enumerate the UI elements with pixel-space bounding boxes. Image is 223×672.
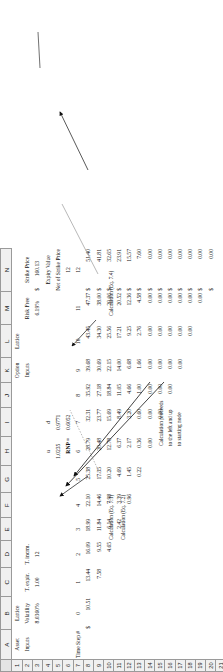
cell-B14[interactable]	[144, 597, 154, 630]
cell-M7[interactable]: 11	[73, 292, 83, 325]
cell-A19[interactable]	[195, 630, 205, 660]
column-header-G[interactable]: G	[1, 466, 12, 493]
row-header-7[interactable]: 7	[73, 660, 83, 672]
cell-N21[interactable]	[216, 248, 223, 292]
cell-M11[interactable]: 20.52	[114, 292, 124, 325]
cell-C6[interactable]	[63, 568, 73, 597]
cell-M14[interactable]: 0.00	[144, 292, 154, 325]
cell-E13[interactable]	[134, 518, 144, 541]
cell-N11[interactable]: $23.91	[114, 248, 124, 292]
cell-F5[interactable]	[53, 493, 63, 518]
cell-F8[interactable]: 22.10	[83, 493, 93, 518]
cell-C10[interactable]	[104, 568, 114, 597]
cell-L18[interactable]: 0.00	[185, 325, 195, 358]
cell-K21[interactable]	[216, 358, 223, 383]
cell-I16[interactable]	[165, 408, 175, 437]
cell-I3[interactable]	[32, 408, 42, 437]
cell-L21[interactable]	[216, 325, 223, 358]
cell-C1[interactable]	[12, 568, 23, 597]
cell-I20[interactable]	[206, 408, 216, 437]
cell-H8[interactable]: 28.79	[83, 437, 93, 466]
cell-N20[interactable]: $0.00	[206, 248, 216, 292]
cell-C12[interactable]	[124, 568, 134, 597]
cell-D9[interactable]: 9.55	[94, 541, 104, 568]
cell-J13[interactable]: 1.00	[134, 383, 144, 408]
cell-K15[interactable]: 0.00	[155, 358, 165, 383]
cell-A11[interactable]	[114, 630, 124, 660]
cell-I17[interactable]	[175, 408, 185, 437]
grid-corner[interactable]	[1, 660, 12, 672]
row-header-19[interactable]: 19	[195, 660, 205, 672]
cell-G9[interactable]: 17.35	[94, 466, 104, 493]
cell-E14[interactable]	[144, 518, 154, 541]
cell-E18[interactable]	[185, 518, 195, 541]
cell-D16[interactable]	[165, 541, 175, 568]
cell-H3[interactable]	[32, 437, 42, 466]
cell-G7[interactable]: 5	[73, 466, 83, 493]
cell-M21[interactable]	[216, 292, 223, 325]
cell-M15[interactable]: 0.00	[155, 292, 165, 325]
cell-G20[interactable]	[206, 466, 216, 493]
cell-K1[interactable]: Option	[12, 358, 23, 383]
row-header-8[interactable]: 8	[83, 660, 93, 672]
cell-C5[interactable]	[53, 568, 63, 597]
cell-L8[interactable]: 43.45	[83, 325, 93, 358]
cell-I10[interactable]: 15.69	[104, 408, 114, 437]
cell-J6[interactable]	[63, 383, 73, 408]
cell-K17[interactable]: 0.00	[175, 358, 185, 383]
cell-F9[interactable]: 14.46	[94, 493, 104, 518]
row-header-5[interactable]: 5	[53, 660, 63, 672]
cell-E19[interactable]	[195, 518, 205, 541]
cell-B16[interactable]	[165, 597, 175, 630]
cell-D10[interactable]: 4.65	[104, 541, 114, 568]
cell-I15[interactable]: 0.00	[155, 408, 165, 437]
cell-A18[interactable]	[185, 630, 195, 660]
cell-E12[interactable]	[124, 518, 134, 541]
cell-L16[interactable]: 0.00	[165, 325, 175, 358]
row-header-10[interactable]: 10	[104, 660, 114, 672]
column-header-F[interactable]: F	[1, 493, 12, 518]
cell-I18[interactable]	[185, 408, 195, 437]
cell-C11[interactable]	[114, 568, 124, 597]
row-header-2[interactable]: 2	[22, 660, 32, 672]
cell-I2[interactable]	[22, 408, 32, 437]
cell-M13[interactable]: 4.58	[134, 292, 144, 325]
column-header-J[interactable]: J	[1, 383, 12, 408]
cell-A12[interactable]	[124, 630, 134, 660]
row-header-3[interactable]: 3	[32, 660, 42, 672]
cell-H20[interactable]	[206, 437, 216, 466]
cell-H7[interactable]: 6	[73, 437, 83, 466]
cell-F17[interactable]	[175, 493, 185, 518]
cell-N10[interactable]: $32.65	[104, 248, 114, 292]
cell-J9[interactable]: 27.18	[94, 383, 104, 408]
cell-L6[interactable]	[63, 325, 73, 358]
cell-M6[interactable]	[63, 292, 73, 325]
cell-F6[interactable]	[63, 493, 73, 518]
cell-K2[interactable]: Inputs	[22, 358, 32, 383]
cell-L19[interactable]	[195, 325, 205, 358]
cell-L11[interactable]: 17.21	[114, 325, 124, 358]
cell-D15[interactable]	[155, 541, 165, 568]
cell-F19[interactable]	[195, 493, 205, 518]
cell-F18[interactable]	[185, 493, 195, 518]
cell-M12[interactable]: 12.36	[124, 292, 134, 325]
cell-F4[interactable]	[43, 493, 53, 518]
cell-B15[interactable]	[155, 597, 165, 630]
column-header-N[interactable]: N	[1, 248, 12, 292]
row-header-1[interactable]: 1	[12, 660, 23, 672]
cell-N16[interactable]: $0.00	[165, 248, 175, 292]
row-header-21[interactable]: 21	[216, 660, 223, 672]
row-header-6[interactable]: 6	[63, 660, 73, 672]
cell-N2[interactable]: Strike Price	[22, 248, 32, 292]
cell-H9[interactable]: 20.48	[94, 437, 104, 466]
cell-I4[interactable]: d	[43, 408, 53, 437]
row-header-14[interactable]: 14	[144, 660, 154, 672]
cell-F16[interactable]	[165, 493, 175, 518]
cell-D19[interactable]	[195, 541, 205, 568]
cell-A10[interactable]	[104, 630, 114, 660]
cell-F2[interactable]	[22, 493, 32, 518]
cell-A14[interactable]	[144, 630, 154, 660]
cell-D21[interactable]	[216, 541, 223, 568]
cell-C17[interactable]	[175, 568, 185, 597]
cell-I5[interactable]: 0.9771	[53, 408, 63, 437]
